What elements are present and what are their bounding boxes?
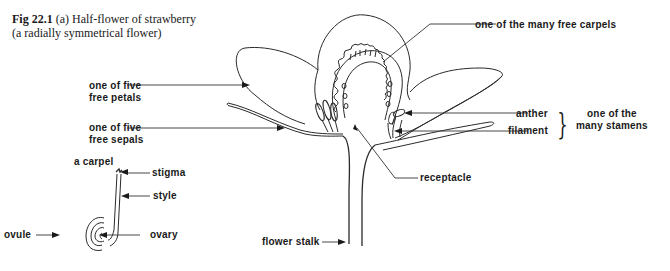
label-filament: filament bbox=[508, 125, 548, 137]
label-stamen-group: one of the many stamens bbox=[576, 108, 648, 132]
stamen-brace-icon: } bbox=[557, 109, 568, 139]
label-stigma: stigma bbox=[152, 167, 185, 179]
carpels-cluster bbox=[334, 44, 392, 113]
right-petal bbox=[395, 68, 503, 138]
label-ovary: ovary bbox=[150, 229, 178, 241]
label-petal: one of five free petals bbox=[89, 80, 141, 104]
left-sepal bbox=[228, 103, 343, 134]
label-sepal: one of five free sepals bbox=[89, 122, 143, 146]
label-style: style bbox=[153, 190, 177, 202]
central-petal bbox=[318, 15, 410, 100]
label-ovule: ovule bbox=[4, 229, 31, 241]
label-a-carpel: a carpel bbox=[74, 156, 113, 168]
carpel-detail-drawing bbox=[86, 169, 122, 250]
label-receptacle: receptacle bbox=[420, 172, 471, 184]
label-flower-stalk: flower stalk bbox=[262, 236, 319, 248]
label-carpel: one of the many free carpels bbox=[475, 19, 616, 31]
label-anther: anther bbox=[516, 108, 548, 120]
strawberry-flower-figure: Fig 22.1 (a) Half-flower of strawberry (… bbox=[0, 0, 670, 271]
flower-stalk bbox=[343, 136, 349, 244]
